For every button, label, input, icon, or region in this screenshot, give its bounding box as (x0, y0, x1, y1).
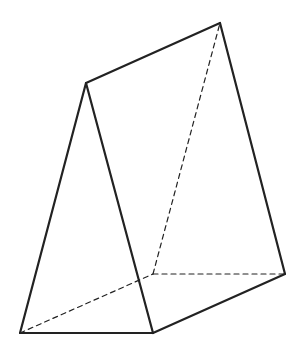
visible-edges (20, 23, 285, 333)
visible-edge-ac (20, 83, 86, 333)
visible-edge-be (220, 23, 285, 274)
hidden-edge-fb (153, 23, 220, 274)
hidden-edges (20, 23, 285, 333)
prism-diagram (0, 0, 298, 351)
hidden-edge-cf (20, 274, 153, 333)
visible-edge-de (153, 274, 285, 333)
visible-edge-ad (86, 83, 153, 333)
triangular-prism-figure (0, 0, 298, 351)
visible-edge-ab (86, 23, 220, 83)
